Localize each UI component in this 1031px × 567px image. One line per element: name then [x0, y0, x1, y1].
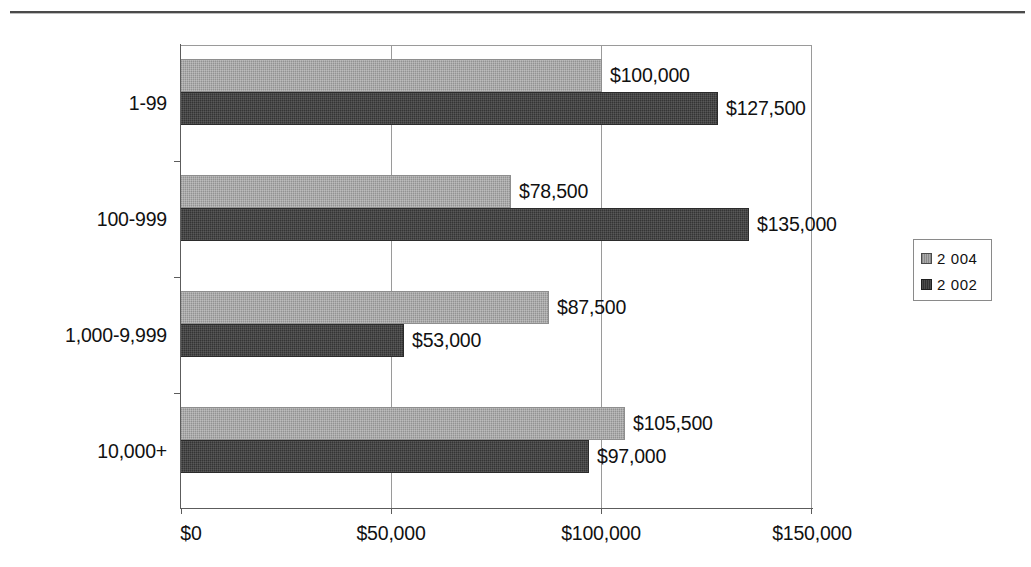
x-tick-label-50000: $50,000: [356, 521, 425, 545]
bar-2004-10000plus: [181, 407, 625, 440]
x-tick-0: [181, 508, 182, 514]
legend-entry-2002: 2 002: [921, 273, 978, 295]
plot-top-border: [181, 45, 812, 46]
legend-swatch-2004: [921, 253, 932, 264]
x-axis-line: [180, 508, 813, 509]
x-tick-150000: [811, 508, 812, 514]
data-label-2002-10000plus: $97,000: [597, 440, 666, 473]
bar-2002-1-99: [181, 92, 718, 125]
data-label-2004-100-999: $78,500: [519, 175, 588, 208]
y-axis-label-1: 100-999: [0, 209, 167, 229]
bar-2004-1000-9999: [181, 291, 549, 324]
y-axis-category-labels: 1-99 100-999 1,000-9,999 10,000+: [0, 45, 167, 508]
data-label-2004-1-99: $100,000: [610, 59, 690, 92]
x-tick-100000: [601, 508, 602, 514]
x-tick-50000: [391, 508, 392, 514]
data-label-2004-10000plus: $105,500: [633, 407, 713, 440]
chart-legend: 2 004 2 002: [913, 239, 992, 301]
legend-swatch-2002: [921, 279, 932, 290]
bar-chart-figure: 1-99 100-999 1,000-9,999 10,000+: [0, 0, 1031, 567]
y-axis-label-3: 10,000+: [0, 441, 167, 461]
legend-label-2002: 2 002: [937, 277, 978, 292]
x-tick-label-100000: $100,000: [561, 521, 641, 545]
data-label-2004-1000-9999: $87,500: [557, 291, 626, 324]
x-tick-label-150000: $150,000: [772, 521, 852, 545]
x-tick-label-0: $0: [180, 521, 201, 545]
data-label-2002-100-999: $135,000: [757, 208, 837, 241]
data-label-2002-1000-9999: $53,000: [412, 324, 481, 357]
bar-2002-10000plus: [181, 440, 589, 473]
plot-area: $100,000 $127,500 $78,500 $135,000 $87,5…: [181, 45, 812, 508]
legend-label-2004: 2 004: [937, 251, 978, 266]
gridline-150000: [811, 45, 812, 508]
y-axis-label-2: 1,000-9,999: [0, 325, 167, 345]
y-tick-0: [174, 161, 181, 162]
bar-2002-100-999: [181, 208, 749, 241]
y-axis-label-0: 1-99: [0, 93, 167, 113]
y-tick-2: [174, 393, 181, 394]
bar-2004-100-999: [181, 175, 511, 208]
legend-entry-2004: 2 004: [921, 247, 978, 269]
bar-2004-1-99: [181, 59, 602, 92]
bar-2002-1000-9999: [181, 324, 404, 357]
data-label-2002-1-99: $127,500: [726, 92, 806, 125]
y-tick-1: [174, 277, 181, 278]
